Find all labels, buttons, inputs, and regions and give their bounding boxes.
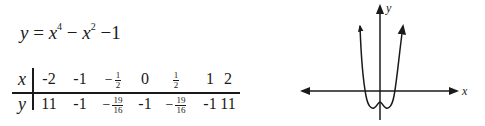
function-graph: y x — [0, 0, 485, 126]
y-axis-label: y — [385, 1, 392, 15]
function-curve — [360, 26, 403, 108]
x-axis-label: x — [461, 84, 468, 98]
